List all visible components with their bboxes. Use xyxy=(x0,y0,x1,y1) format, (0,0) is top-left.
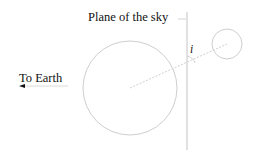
to-earth-label: To Earth xyxy=(19,72,62,85)
plane-of-sky-label: Plane of the sky xyxy=(88,11,168,24)
center-line xyxy=(130,44,227,88)
inclination-label: i xyxy=(190,44,193,56)
